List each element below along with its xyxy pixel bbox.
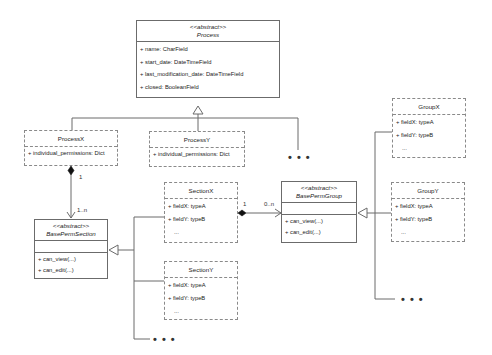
inheritance-arrow-basepermgroup bbox=[358, 208, 367, 218]
class-groupx: GroupX + fieldX: typeA + fieldY: typeB .… bbox=[392, 98, 466, 158]
attribute: ... bbox=[168, 305, 234, 318]
multiplicity-label: 0..n bbox=[264, 201, 274, 207]
attribute: ... bbox=[395, 226, 461, 239]
attribute: + fieldX: typeA bbox=[395, 200, 461, 213]
attribute-list: + individual_permissions: Dict bbox=[150, 148, 244, 161]
attribute: + last_modification_date: DateTimeField bbox=[140, 68, 276, 81]
attribute-list: + fieldX: typeA + fieldY: typeB ... bbox=[393, 115, 465, 156]
class-name: SectionY bbox=[167, 264, 235, 274]
attribute: + individual_permissions: Dict bbox=[153, 149, 241, 160]
attribute-list: + fieldX: typeA + fieldY: typeB ... bbox=[165, 199, 237, 240]
class-header: SectionX bbox=[165, 183, 237, 198]
class-groupy: GroupY + fieldX: typeA + fieldY: typeB .… bbox=[391, 182, 465, 242]
class-header: <<abstract>> BasePermSection bbox=[35, 220, 107, 240]
attribute-list: + individual_permissions: Dict bbox=[25, 147, 117, 160]
method-list: + can_view(...) + can_edit(...) bbox=[282, 215, 356, 239]
attribute: + closed: BooleanField bbox=[140, 81, 276, 94]
class-process: <<abstract>> Process + name: CharField +… bbox=[136, 20, 280, 98]
class-header: GroupY bbox=[392, 183, 464, 198]
attribute-list: + name: CharField + start_date: DateTime… bbox=[137, 42, 279, 94]
class-name: ProcessY bbox=[152, 134, 242, 144]
class-processy: ProcessY + individual_permissions: Dict bbox=[149, 131, 245, 167]
more-process-subclasses: • • • bbox=[288, 153, 311, 161]
class-header: ProcessY bbox=[150, 132, 244, 147]
stereotype-label: <<abstract>> bbox=[284, 184, 354, 192]
class-basepermsection: <<abstract>> BasePermSection + can_view(… bbox=[34, 219, 108, 279]
class-name: Process bbox=[139, 31, 277, 39]
more-section-subclasses: • • • bbox=[153, 335, 176, 343]
class-name: BasePermGroup bbox=[284, 192, 354, 200]
more-group-subclasses: • • • bbox=[401, 295, 424, 303]
empty-attribute-compartment bbox=[282, 203, 356, 214]
method: + can_edit(...) bbox=[285, 227, 353, 238]
attribute-list: + fieldX: typeA + fieldY: typeB ... bbox=[392, 199, 464, 240]
class-sectionx: SectionX + fieldX: typeA + fieldY: typeB… bbox=[164, 182, 238, 243]
composition-diamond-processx bbox=[68, 166, 74, 175]
class-processx: ProcessX + individual_permissions: Dict bbox=[24, 130, 118, 166]
attribute: + fieldY: typeB bbox=[168, 292, 234, 305]
class-header: <<abstract>> Process bbox=[137, 21, 279, 41]
inheritance-arrow-process bbox=[193, 106, 203, 114]
class-header: GroupX bbox=[393, 99, 465, 114]
class-name: BasePermSection bbox=[37, 230, 105, 238]
attribute: + fieldX: typeA bbox=[168, 200, 234, 213]
class-basepermgroup: <<abstract>> BasePermGroup + can_view(..… bbox=[281, 181, 357, 243]
class-header: SectionY bbox=[165, 262, 237, 277]
attribute: + fieldY: typeB bbox=[395, 213, 461, 226]
composition-diamond-sectionx bbox=[238, 210, 246, 216]
attribute: + fieldX: typeA bbox=[396, 116, 462, 129]
method-list: + can_view(...) + can_edit(...) bbox=[35, 253, 107, 277]
uml-diagram: <<abstract>> Process + name: CharField +… bbox=[0, 0, 492, 355]
attribute-list: + fieldX: typeA + fieldY: typeB ... bbox=[165, 278, 237, 319]
attribute: + individual_permissions: Dict bbox=[28, 148, 114, 159]
attribute: ... bbox=[168, 226, 234, 239]
attribute: ... bbox=[396, 142, 462, 155]
attribute: + fieldY: typeB bbox=[396, 129, 462, 142]
method: + can_view(...) bbox=[285, 216, 353, 227]
class-name: SectionX bbox=[167, 185, 235, 195]
class-name: GroupX bbox=[395, 101, 463, 111]
class-header: ProcessX bbox=[25, 131, 117, 146]
attribute: + fieldY: typeB bbox=[168, 213, 234, 226]
attribute: + start_date: DateTimeField bbox=[140, 56, 276, 69]
class-name: ProcessX bbox=[27, 133, 115, 143]
class-name: GroupY bbox=[394, 185, 462, 195]
multiplicity-label: 1..n bbox=[77, 207, 87, 213]
attribute: + fieldX: typeA bbox=[168, 279, 234, 292]
multiplicity-label: 1 bbox=[79, 174, 82, 180]
class-header: <<abstract>> BasePermGroup bbox=[282, 182, 356, 202]
method: + can_edit(...) bbox=[38, 265, 104, 276]
empty-attribute-compartment bbox=[35, 241, 107, 252]
inheritance-arrow-basepermsection bbox=[109, 245, 118, 255]
multiplicity-label: 1 bbox=[243, 201, 246, 207]
stereotype-label: <<abstract>> bbox=[37, 222, 105, 230]
method: + can_view(...) bbox=[38, 254, 104, 265]
class-sectiony: SectionY + fieldX: typeA + fieldY: typeB… bbox=[164, 261, 238, 320]
stereotype-label: <<abstract>> bbox=[139, 23, 277, 31]
attribute: + name: CharField bbox=[140, 43, 276, 56]
